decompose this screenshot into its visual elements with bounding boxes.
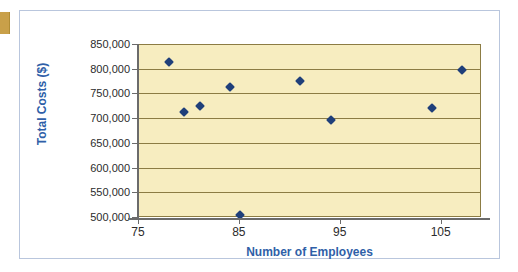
gridline [139, 93, 480, 94]
x-axis-tick-label: 95 [333, 225, 346, 239]
data-point-marker [326, 115, 336, 125]
y-axis-tick [132, 168, 138, 169]
y-axis-tick-label: 800,000 [66, 63, 130, 75]
y-axis-tick-label: 850,000 [66, 38, 130, 50]
y-axis-tick-label-group: 500,000550,000600,000650,000700,000750,0… [60, 11, 130, 258]
x-axis-tick-label: 105 [431, 225, 451, 239]
x-axis-line [128, 218, 490, 220]
y-axis-tick [132, 192, 138, 193]
data-point-marker [179, 107, 189, 117]
y-axis-tick [132, 143, 138, 144]
x-axis-title: Number of Employees [138, 245, 481, 259]
gridline [139, 118, 480, 119]
y-axis-title: Total Costs ($) [35, 44, 49, 164]
x-axis-tick-label: 75 [131, 225, 144, 239]
y-axis-tick-label: 700,000 [66, 112, 130, 124]
data-point-marker [457, 65, 467, 75]
data-point-marker [427, 103, 437, 113]
y-axis-tick-label: 600,000 [66, 162, 130, 174]
gridline [139, 143, 480, 144]
y-axis-tick-label: 550,000 [66, 186, 130, 198]
gridline [139, 168, 480, 169]
y-axis-tick-label: 650,000 [66, 137, 130, 149]
y-axis-tick [132, 118, 138, 119]
chart-figure-frame: 500,000550,000600,000650,000700,000750,0… [19, 10, 500, 259]
x-axis-tick-label: 85 [232, 225, 245, 239]
x-axis-tick [340, 218, 341, 224]
data-point-marker [195, 101, 205, 111]
y-axis-tick-label: 500,000 [66, 211, 130, 223]
y-axis-tick-label: 750,000 [66, 87, 130, 99]
data-point-marker [164, 57, 174, 67]
x-axis-tick [441, 218, 442, 224]
y-axis-tick [132, 69, 138, 70]
x-axis-tick [239, 218, 240, 224]
y-axis-tick [132, 44, 138, 45]
scatter-plot-area [138, 44, 481, 217]
gridline [139, 69, 480, 70]
gridline [139, 192, 480, 193]
gridline [139, 44, 480, 45]
y-axis-tick [132, 93, 138, 94]
data-point-marker [225, 82, 235, 92]
data-point-marker [295, 76, 305, 86]
x-axis-tick [138, 218, 139, 224]
page-edge-tab-marker [0, 12, 10, 34]
